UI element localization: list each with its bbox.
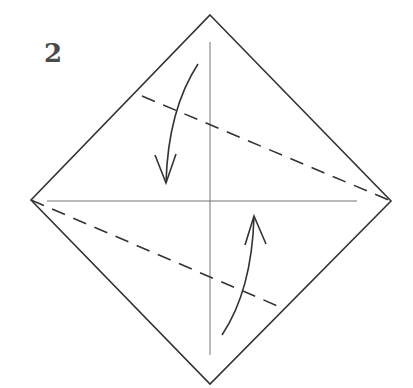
fold-up-arrow-icon: [222, 216, 266, 335]
fold-down-arrow-icon: [155, 64, 198, 183]
origami-diagram: [0, 0, 413, 388]
paper-square-outline: [31, 15, 391, 384]
upper-valley-fold: [142, 96, 391, 201]
